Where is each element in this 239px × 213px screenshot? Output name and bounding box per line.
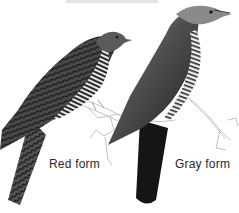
gray-form-eye bbox=[209, 10, 213, 14]
red-form-head bbox=[96, 32, 132, 52]
gray-form-tail bbox=[136, 120, 168, 204]
gray-form-label: Gray form bbox=[175, 157, 230, 171]
gray-form-bird bbox=[108, 6, 232, 204]
red-form-label: Red form bbox=[49, 157, 100, 171]
bird-illustration bbox=[0, 0, 239, 213]
cropped-caption bbox=[66, 0, 158, 3]
red-form-eye bbox=[115, 35, 118, 38]
